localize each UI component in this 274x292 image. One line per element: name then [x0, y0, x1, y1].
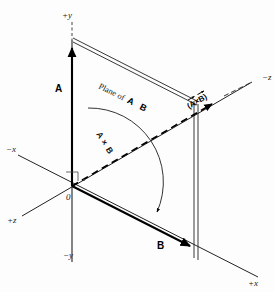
axis-label-y-positive: +y	[62, 10, 72, 20]
plane-top-edge-outer	[73, 38, 197, 101]
plane-label-group: Plane of A B	[97, 81, 149, 114]
vector-b-label: B	[157, 240, 164, 251]
z-negative-dashed-extension	[224, 83, 250, 96]
origin-label: 0	[66, 192, 71, 202]
arc-label-times: ×	[99, 137, 110, 147]
axis-label-z-negative: −z	[262, 72, 272, 82]
plane-top-edge-inner	[73, 42, 197, 105]
axis-label-x-positive: +x	[248, 278, 258, 288]
diagram-canvas: +y −y −x +x +z −z 0 A B (A×B) Plane of A…	[0, 0, 274, 292]
z-axis-line	[22, 82, 252, 216]
arc-label-group: A × B	[94, 130, 115, 156]
vector-a-label: A	[55, 83, 62, 94]
vector-cross-product-figure: +y −y −x +x +z −z 0 A B (A×B) Plane of A…	[0, 0, 274, 292]
vector-a-cross-b-arrow	[72, 104, 212, 186]
x-axis-line	[18, 155, 258, 277]
origin-dot-marker	[83, 179, 85, 181]
plane-vector-a-label: A	[126, 95, 137, 107]
axis-label-x-negative: −x	[6, 144, 16, 154]
vector-b-arrow	[72, 186, 190, 246]
axis-label-z-positive: +z	[7, 215, 17, 225]
plane-of-text: Plane of	[97, 81, 127, 103]
plane-vector-b-label: B	[138, 102, 149, 114]
axis-label-y-negative: −y	[63, 250, 73, 260]
arc-label-b: B	[104, 145, 116, 156]
